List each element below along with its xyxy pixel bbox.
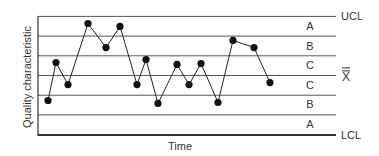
data-point	[185, 81, 192, 88]
zone-label-a-lower: A	[306, 118, 313, 130]
data-point	[250, 44, 257, 51]
control-chart	[0, 0, 379, 156]
zone-label-b-lower: B	[306, 98, 313, 110]
x-axis-label: Time	[168, 140, 192, 152]
zone-label-b-upper: B	[306, 40, 313, 52]
center-line-label: X	[342, 71, 350, 83]
data-point	[154, 100, 161, 107]
data-point	[197, 60, 204, 67]
data-point	[84, 20, 91, 27]
data-point	[266, 79, 273, 86]
lcl-label: LCL	[341, 129, 361, 141]
data-point	[44, 97, 51, 104]
data-point	[133, 81, 140, 88]
data-series-line	[48, 23, 270, 103]
zone-lines	[38, 16, 336, 115]
data-point	[116, 23, 123, 30]
ucl-label: UCL	[341, 10, 363, 22]
data-point	[173, 61, 180, 68]
data-point	[52, 59, 59, 66]
zone-label-c-upper: C	[306, 59, 314, 71]
data-point	[64, 81, 71, 88]
zone-label-c-lower: C	[306, 79, 314, 91]
data-points	[44, 20, 273, 107]
data-point	[229, 37, 236, 44]
zone-label-a-upper: A	[306, 20, 313, 32]
y-axis-label: Quality characteristic	[21, 26, 33, 128]
data-point	[214, 99, 221, 106]
center-line-symbol: X	[342, 70, 350, 84]
data-point	[102, 44, 109, 51]
data-point	[142, 56, 149, 63]
